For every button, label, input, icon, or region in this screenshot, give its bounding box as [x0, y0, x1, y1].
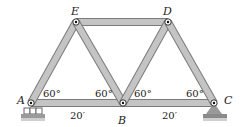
joint-label-b: B	[117, 114, 126, 127]
joint-label-a: A	[16, 94, 25, 107]
roller-support-a	[21, 108, 45, 121]
joint-center-c	[213, 102, 215, 104]
joint-label-d: D	[162, 5, 172, 18]
angle-label-c: 60°	[186, 88, 204, 99]
dimension-label-ab: 20′	[70, 110, 86, 121]
joint-center-d	[167, 21, 169, 23]
angle-label-a: 60°	[43, 88, 61, 99]
joint-label-e: E	[70, 5, 79, 18]
joint-center-a	[30, 102, 32, 104]
joint-center-e	[75, 21, 77, 23]
angle-label-b-right: 60°	[134, 88, 152, 99]
joint-center-b	[122, 102, 124, 104]
angle-label-b-left: 60°	[95, 88, 113, 99]
joint-label-c: C	[224, 94, 233, 107]
dimension-label-bc: 20′	[162, 110, 178, 121]
truss-diagram: A B C D E 60° 60° 60° 60° 20′ 20′	[0, 0, 242, 127]
